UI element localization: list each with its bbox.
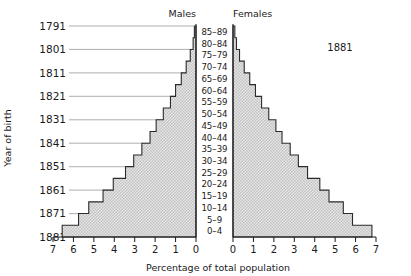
pyramid-chart-svg: Males Females 1881 Year of birth Percent… (0, 0, 411, 276)
right-x-tick-labels: 01234567 (230, 244, 379, 255)
left-x-tick-label: 3 (132, 244, 138, 255)
males-bar-group (62, 26, 196, 237)
left-x-tick-label: 2 (152, 244, 158, 255)
right-x-tick-label: 3 (291, 244, 297, 255)
x-axis-title: Percentage of total population (146, 262, 290, 273)
year-annotation: 1881 (327, 42, 352, 53)
age-band-label: 45–49 (201, 121, 227, 131)
age-band-label: 30–34 (201, 156, 227, 166)
age-band-label: 50–54 (201, 109, 227, 119)
left-x-tick-label: 0 (193, 244, 199, 255)
age-band-label: 75–79 (201, 50, 227, 60)
left-x-tick-label: 5 (91, 244, 97, 255)
age-band-label: 25–29 (201, 168, 227, 178)
age-band-label: 40–44 (201, 133, 227, 143)
year-label-group: 1791180118111821183118411851186118711881 (39, 20, 66, 243)
right-x-tick-label: 7 (373, 244, 379, 255)
right-x-tick-label: 5 (332, 244, 338, 255)
age-band-label: 15–19 (201, 191, 227, 201)
age-band-label: 55–59 (201, 97, 227, 107)
age-band-label: 20–24 (201, 179, 227, 189)
left-x-tick-label: 4 (111, 244, 117, 255)
age-band-label: 60–64 (201, 86, 227, 96)
year-of-birth-label: 1811 (39, 67, 66, 79)
males-pyramid-shape (62, 26, 196, 237)
year-of-birth-label: 1851 (39, 160, 66, 172)
left-x-tick-label: 7 (50, 244, 56, 255)
right-x-tick-label: 1 (250, 244, 256, 255)
right-x-tick-label: 6 (352, 244, 358, 255)
age-band-label: 85–89 (201, 27, 227, 37)
year-of-birth-label: 1831 (39, 113, 66, 125)
year-of-birth-label: 1841 (39, 137, 66, 149)
right-x-tick-label: 4 (312, 244, 318, 255)
population-pyramid-figure: Males Females 1881 Year of birth Percent… (0, 0, 411, 276)
age-band-label: 70–74 (201, 62, 227, 72)
age-band-label: 65–69 (201, 74, 227, 84)
age-band-label: 80–84 (201, 39, 227, 49)
males-header: Males (169, 8, 197, 19)
age-band-label-group: 0–45–910–1415–1920–2425–2930–3435–3940–4… (201, 27, 227, 236)
age-band-label: 10–14 (201, 203, 227, 213)
left-x-tick-label: 6 (70, 244, 76, 255)
females-pyramid-shape (233, 26, 372, 237)
females-bar-group (233, 26, 372, 237)
year-of-birth-label: 1821 (39, 90, 66, 102)
year-of-birth-label: 1871 (39, 207, 66, 219)
year-of-birth-label: 1861 (39, 184, 66, 196)
chart-headers: Males Females (169, 8, 273, 19)
left-x-tick-labels: 76543210 (50, 244, 199, 255)
age-band-label: 0–4 (207, 226, 222, 236)
y-axis-title: Year of birth (2, 109, 13, 168)
right-x-tick-label: 2 (271, 244, 277, 255)
year-of-birth-label: 1801 (39, 43, 66, 55)
females-header: Females (233, 8, 272, 19)
age-band-label: 5–9 (207, 215, 222, 225)
age-band-label: 35–39 (201, 144, 227, 154)
year-of-birth-label: 1791 (39, 20, 66, 32)
left-x-tick-label: 1 (172, 244, 178, 255)
right-x-tick-label: 0 (230, 244, 236, 255)
